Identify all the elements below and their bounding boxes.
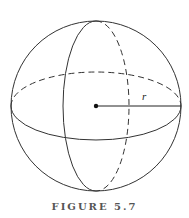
figure-caption: FIGURE 5.7 <box>0 201 189 212</box>
radius-label: r <box>142 90 146 102</box>
sphere-diagram <box>0 0 189 218</box>
equator-front <box>11 106 181 140</box>
center-point <box>94 104 98 108</box>
meridian-front <box>63 21 96 191</box>
equator-back-dashed <box>11 72 181 106</box>
